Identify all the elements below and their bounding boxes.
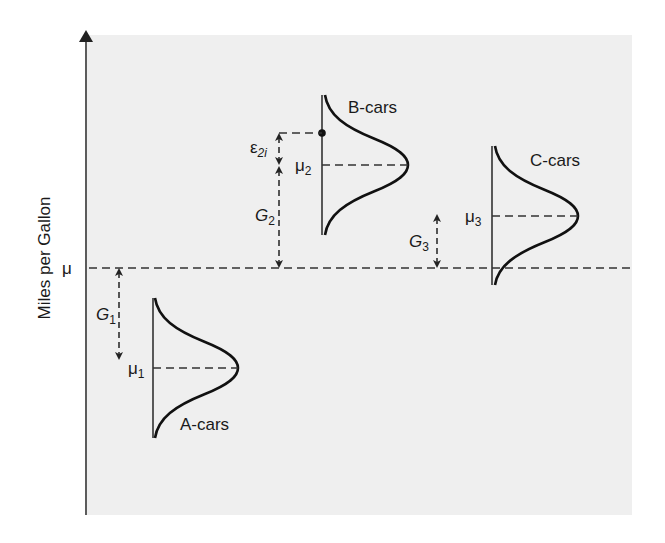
b-cars-label: B-cars	[348, 98, 397, 117]
diagram-canvas: Miles per Gallon μ μ1 A-cars G1 μ2 B-car…	[0, 0, 665, 543]
y-axis-label: Miles per Gallon	[35, 197, 54, 320]
a-cars-label: A-cars	[180, 415, 229, 434]
c-cars-label: C-cars	[530, 151, 580, 170]
grand-mean-label: μ	[62, 259, 72, 278]
